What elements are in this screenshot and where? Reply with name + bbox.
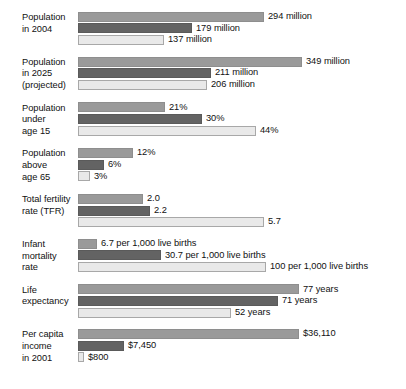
group-spacer xyxy=(0,92,406,102)
bar-value-label: 6.7 per 1,000 live births xyxy=(97,238,196,250)
bar-group-label-line: expectancy xyxy=(22,296,78,308)
bar-row: 71 years xyxy=(78,295,406,307)
bar-row: 3% xyxy=(78,171,406,183)
group-spacer xyxy=(0,228,406,238)
bar-value-label: 6% xyxy=(104,159,121,171)
bar-group-label: Populationaboveage 65 xyxy=(0,147,78,183)
group-spacer xyxy=(0,318,406,328)
bar-group-label-line: Life xyxy=(22,285,78,297)
bar-group-label-line: in 2004 xyxy=(22,24,78,36)
bar-group: Populationunderage 1521%30%44% xyxy=(0,102,406,138)
bar-group: Total fertilityrate (TFR)2.02.25.7 xyxy=(0,193,406,228)
bar-group-label-line: Population xyxy=(22,148,78,160)
bar-group-label-line: above xyxy=(22,160,78,172)
bar-series-1 xyxy=(78,329,299,339)
bar-value-label: $800 xyxy=(84,352,108,364)
bar-group-label: Infantmortalityrate xyxy=(0,238,78,274)
bar-value-label: 137 million xyxy=(164,34,212,46)
bar-group-label-line: mortality xyxy=(22,251,78,263)
bar-series-3 xyxy=(78,126,256,136)
bar-group: Per capitaincomein 2001$36,110$7,450$800 xyxy=(0,328,406,364)
bar-row: 5.7 xyxy=(78,216,406,228)
bar-group-bars: 12%6%3% xyxy=(78,147,406,182)
bar-value-label: 3% xyxy=(90,171,107,183)
bar-value-label: 179 million xyxy=(192,23,240,35)
bar-row: 100 per 1,000 live births xyxy=(78,261,406,273)
bar-series-2 xyxy=(78,206,150,216)
bar-series-3 xyxy=(78,262,266,272)
bar-group-label-line: under xyxy=(22,114,78,126)
group-spacer xyxy=(0,274,406,284)
bar-row: $800 xyxy=(78,352,406,364)
bar-group-label: Total fertilityrate (TFR) xyxy=(0,193,78,217)
bar-series-2 xyxy=(78,23,192,33)
bar-value-label: 52 years xyxy=(231,307,270,319)
bar-row: 44% xyxy=(78,125,406,137)
bar-group-label: Per capitaincomein 2001 xyxy=(0,328,78,364)
bar-group-label-line: Population xyxy=(22,103,78,115)
bar-row: $36,110 xyxy=(78,328,406,340)
bar-value-label: 71 years xyxy=(278,295,317,307)
bar-value-label: 12% xyxy=(133,147,155,159)
bar-value-label: $36,110 xyxy=(299,328,336,340)
bar-series-1 xyxy=(78,239,97,249)
group-spacer xyxy=(0,183,406,193)
bar-series-1 xyxy=(78,148,133,158)
bar-row: 12% xyxy=(78,147,406,159)
bar-series-2 xyxy=(78,341,124,351)
group-spacer xyxy=(0,46,406,56)
bar-row: 2.0 xyxy=(78,193,406,205)
bar-group-label-line: Population xyxy=(22,57,78,69)
bar-group-label-line: Population xyxy=(22,12,78,24)
bar-group-label: Populationin 2004 xyxy=(0,11,78,35)
bar-value-label: 77 years xyxy=(299,284,338,296)
bar-row: 30% xyxy=(78,113,406,125)
bar-group: Populationin 2004294 million179 million1… xyxy=(0,11,406,46)
bar-row: 6% xyxy=(78,159,406,171)
bar-group-label-line: Per capita xyxy=(22,329,78,341)
bar-group-label: Populationunderage 15 xyxy=(0,102,78,138)
bar-group-label-line: in 2001 xyxy=(22,353,78,365)
bar-group: Lifeexpectancy77 years71 years52 years xyxy=(0,284,406,319)
bar-value-label: 2.2 xyxy=(150,205,167,217)
bar-row: 179 million xyxy=(78,23,406,35)
bar-series-2 xyxy=(78,68,211,78)
bar-value-label: 349 million xyxy=(302,56,350,68)
bar-value-label: 21% xyxy=(165,102,187,114)
bar-group: Populationin 2025(projected)349 million2… xyxy=(0,56,406,92)
bar-group-bars: 6.7 per 1,000 live births30.7 per 1,000 … xyxy=(78,238,406,273)
bar-group-label-line: (projected) xyxy=(22,80,78,92)
bar-group: Populationaboveage 6512%6%3% xyxy=(0,147,406,183)
bar-group-bars: 294 million179 million137 million xyxy=(78,11,406,46)
bar-row: 52 years xyxy=(78,307,406,319)
bar-row: $7,450 xyxy=(78,340,406,352)
bar-group-label-line: age 15 xyxy=(22,126,78,138)
bar-series-3 xyxy=(78,171,90,181)
bar-value-label: 294 million xyxy=(264,11,312,23)
bar-value-label: 5.7 xyxy=(264,216,281,228)
bar-group-bars: $36,110$7,450$800 xyxy=(78,328,406,363)
bar-series-2 xyxy=(78,250,161,260)
bar-series-1 xyxy=(78,102,165,112)
bar-value-label: 30% xyxy=(202,113,224,125)
bar-series-3 xyxy=(78,80,207,90)
bar-row: 6.7 per 1,000 live births xyxy=(78,238,406,250)
bar-row: 30.7 per 1,000 live births xyxy=(78,250,406,262)
bar-group-label-line: Infant xyxy=(22,239,78,251)
bar-group-bars: 21%30%44% xyxy=(78,102,406,137)
bar-group-label-line: age 65 xyxy=(22,172,78,184)
bar-group-bars: 2.02.25.7 xyxy=(78,193,406,228)
bar-row: 21% xyxy=(78,102,406,114)
bar-series-2 xyxy=(78,160,104,170)
bar-series-2 xyxy=(78,114,202,124)
bar-group-bars: 77 years71 years52 years xyxy=(78,284,406,319)
bar-group: Infantmortalityrate6.7 per 1,000 live bi… xyxy=(0,238,406,274)
bar-row: 137 million xyxy=(78,34,406,46)
bar-series-3 xyxy=(78,35,164,45)
bar-series-1 xyxy=(78,194,143,204)
bar-row: 294 million xyxy=(78,11,406,23)
bar-series-1 xyxy=(78,57,302,67)
bar-series-1 xyxy=(78,12,264,22)
bar-group-label: Populationin 2025(projected) xyxy=(0,56,78,92)
bar-group-label-line: Total fertility xyxy=(22,194,78,206)
